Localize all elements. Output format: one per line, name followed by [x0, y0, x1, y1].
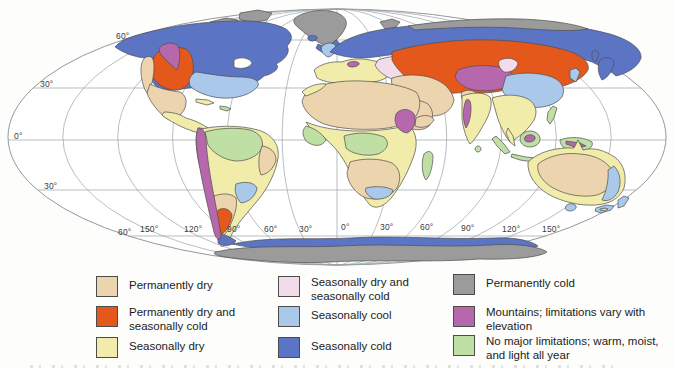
lat-label-30n: 30° — [40, 79, 53, 89]
legend-label: Mountains; limitations vary with elevati… — [486, 306, 673, 333]
legend-label: Permanently cold — [486, 274, 575, 291]
figure-page: 60° 30° 0° 30° 60° 150° 120° 90° 60° 30°… — [0, 0, 674, 368]
lon-label-150w: 150° — [140, 224, 158, 234]
lon-label-30w: 30° — [299, 224, 312, 234]
lon-label-0: 0° — [341, 222, 350, 232]
legend-swatch-mountains — [453, 306, 475, 327]
legend-item-permanently-cold: Permanently cold — [453, 274, 673, 295]
lon-label-120w: 120° — [184, 224, 202, 234]
legend-swatch-seasonally-cool — [278, 306, 300, 327]
world-map: 60° 30° 0° 30° 60° 150° 120° 90° 60° 30°… — [0, 0, 674, 270]
legend-item-permanently-dry-seasonally-cold: Permanently dry and seasonally cold — [96, 306, 266, 333]
region-antarctica — [214, 244, 547, 262]
legend-item-permanently-dry: Permanently dry — [96, 276, 266, 297]
lon-label-30e: 30° — [380, 222, 393, 232]
legend-label: No major limitations; warm, moist, and l… — [486, 335, 673, 362]
legend-label: Permanently dry and seasonally cold — [129, 306, 266, 333]
legend-swatch-permanently-dry — [96, 276, 118, 297]
legend-item-seasonally-dry: Seasonally dry — [96, 337, 266, 358]
world-map-svg — [0, 0, 674, 270]
legend-swatch-permanently-dry-seasonally-cold — [96, 306, 118, 327]
region-sri-lanka — [475, 146, 481, 152]
legend-item-seasonally-cool: Seasonally cool — [278, 306, 448, 327]
region-iceland — [308, 36, 317, 42]
legend-label: Seasonally dry — [129, 337, 204, 354]
region-borneo-mountains — [524, 135, 535, 142]
lon-label-60e: 60° — [420, 222, 433, 232]
legend-label: Permanently dry — [129, 276, 213, 293]
lon-label-150e: 150° — [542, 224, 560, 234]
lon-label-120e: 120° — [502, 224, 520, 234]
map-legend: Permanently dry Permanently dry and seas… — [0, 268, 674, 362]
lon-label-90w: 90° — [227, 224, 240, 234]
legend-swatch-seasonally-cold — [278, 337, 300, 358]
legend-label: Seasonally dry and seasonally cold — [311, 276, 448, 303]
lat-label-60n: 60° — [116, 31, 129, 41]
lon-label-90e: 90° — [461, 223, 474, 233]
legend-label: Seasonally cool — [311, 306, 392, 323]
legend-item-no-major-limitations: No major limitations; warm, moist, and l… — [453, 335, 673, 362]
legend-label: Seasonally cold — [311, 337, 392, 354]
legend-item-mountains: Mountains; limitations vary with elevati… — [453, 306, 673, 333]
region-tasmania — [565, 204, 576, 211]
legend-item-seasonally-dry-seasonally-cold: Seasonally dry and seasonally cold — [278, 276, 448, 303]
legend-item-seasonally-cold: Seasonally cold — [278, 337, 448, 358]
legend-swatch-no-major-limitations — [453, 335, 475, 356]
legend-swatch-permanently-cold — [453, 274, 475, 295]
lat-label-60s: 60° — [118, 227, 131, 237]
legend-swatch-seasonally-dry-seasonally-cold — [278, 276, 300, 297]
lon-label-60w: 60° — [264, 224, 277, 234]
lat-label-0: 0° — [14, 131, 23, 141]
lat-label-30s: 30° — [44, 181, 57, 191]
legend-swatch-seasonally-dry — [96, 337, 118, 358]
